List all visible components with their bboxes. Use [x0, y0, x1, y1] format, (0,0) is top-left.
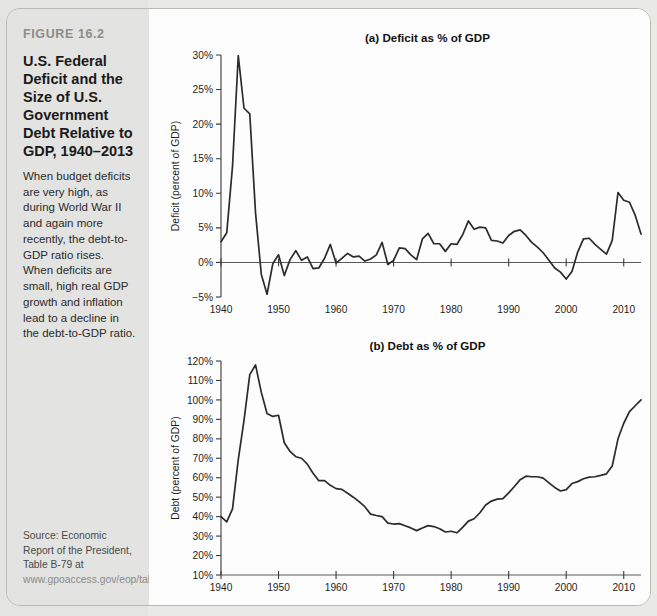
figure-description: When budget deficits are very high, as d… — [23, 169, 137, 342]
x-tick-label: 1980 — [440, 582, 463, 593]
y-tick-label: 20% — [193, 119, 213, 130]
y-tick-label: 25% — [193, 84, 213, 95]
y-tick-label: −5% — [192, 292, 213, 303]
chart-debt-title: (b) Debt as % of GDP — [149, 339, 651, 352]
figure-title: U.S. Federal Deficit and the Size of U.S… — [23, 53, 137, 161]
x-tick-label: 1980 — [440, 304, 463, 315]
y-tick-label: 5% — [198, 222, 213, 233]
y-axis-title: Debt (percent of GDP) — [170, 416, 181, 519]
x-tick-label: 1990 — [497, 582, 520, 593]
figure-source: Source: Economic Report of the President… — [23, 529, 139, 587]
x-tick-label: 1960 — [325, 304, 348, 315]
x-tick-label: 1970 — [382, 582, 405, 593]
y-tick-label: 0% — [198, 257, 213, 268]
y-tick-label: 30% — [193, 531, 213, 542]
chart-deficit-title: (a) Deficit as % of GDP — [149, 31, 651, 44]
x-tick-label: 2000 — [555, 582, 578, 593]
x-tick-label: 1950 — [267, 304, 290, 315]
y-tick-label: 100% — [187, 395, 213, 406]
y-tick-label: 80% — [193, 433, 213, 444]
x-tick-label: 1970 — [382, 304, 405, 315]
x-tick-label: 1990 — [497, 304, 520, 315]
y-tick-label: 10% — [193, 188, 213, 199]
y-tick-label: 70% — [193, 453, 213, 464]
y-tick-label: 30% — [193, 50, 213, 61]
x-tick-label: 2010 — [612, 304, 635, 315]
x-tick-label: 1940 — [210, 582, 233, 593]
data-series-line — [221, 56, 641, 295]
data-series-line — [221, 365, 641, 533]
plot-panel: (a) Deficit as % of GDP −5%0%5%10%15%20%… — [149, 9, 650, 605]
x-tick-label: 2000 — [555, 304, 578, 315]
caption-rail: FIGURE 16.2 U.S. Federal Deficit and the… — [7, 9, 149, 605]
chart-debt-svg: 10%20%30%40%50%60%70%80%90%100%110%120%1… — [149, 353, 651, 603]
chart-deficit-svg: −5%0%5%10%15%20%25%30%194019501960197019… — [149, 45, 651, 325]
y-tick-label: 20% — [193, 550, 213, 561]
x-tick-label: 1960 — [325, 582, 348, 593]
figure-card: FIGURE 16.2 U.S. Federal Deficit and the… — [6, 8, 651, 606]
y-axis-title: Deficit (percent of GDP) — [170, 121, 181, 231]
y-tick-label: 60% — [193, 472, 213, 483]
chart-debt: (b) Debt as % of GDP 10%20%30%40%50%60%7… — [149, 339, 650, 604]
y-tick-label: 15% — [193, 153, 213, 164]
y-tick-label: 120% — [187, 356, 213, 367]
y-tick-label: 40% — [193, 511, 213, 522]
source-prefix: Source: Economic Report of the President… — [23, 530, 132, 570]
y-tick-label: 110% — [188, 375, 213, 386]
y-tick-label: 50% — [193, 492, 213, 503]
y-tick-label: 90% — [193, 414, 213, 425]
x-tick-label: 1940 — [210, 304, 233, 315]
chart-deficit: (a) Deficit as % of GDP −5%0%5%10%15%20%… — [149, 31, 650, 331]
figure-number: FIGURE 16.2 — [23, 27, 137, 41]
y-tick-label: 10% — [193, 570, 213, 581]
x-tick-label: 2010 — [612, 582, 635, 593]
x-tick-label: 1950 — [267, 582, 290, 593]
